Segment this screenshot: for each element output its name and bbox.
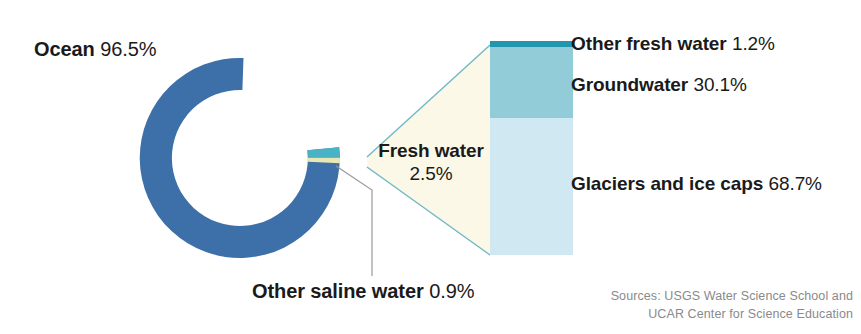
bar-segment-other-fresh-water[interactable] xyxy=(490,41,573,47)
label-groundwater-name: Groundwater xyxy=(571,74,688,95)
water-distribution-infographic: Ocean 96.5% Fresh water 2.5% Other salin… xyxy=(0,0,861,334)
donut-chart xyxy=(140,58,340,258)
sources-line-1: Sources: USGS Water Science School and xyxy=(523,287,853,305)
label-other-saline-water-name: Other saline water xyxy=(252,280,424,302)
saline-leader-line xyxy=(336,166,372,276)
label-ocean-name: Ocean xyxy=(34,38,95,60)
label-other-saline-water: Other saline water 0.9% xyxy=(252,280,474,302)
label-glaciers-and-ice-caps: Glaciers and ice caps 68.7% xyxy=(571,173,822,194)
label-fresh-water: Fresh water 2.5% xyxy=(370,140,492,185)
label-ocean-pct: 96.5% xyxy=(100,38,156,60)
label-other-fresh-water-pct: 1.2% xyxy=(732,33,775,54)
sources-credit: Sources: USGS Water Science School and U… xyxy=(523,287,853,323)
label-fresh-water-name: Fresh water xyxy=(370,140,492,161)
label-groundwater-pct: 30.1% xyxy=(693,74,746,95)
label-fresh-water-pct: 2.5% xyxy=(370,163,492,184)
label-glaciers-name: Glaciers and ice caps xyxy=(571,173,763,194)
label-glaciers-pct: 68.7% xyxy=(769,173,822,194)
bar-segment-groundwater[interactable] xyxy=(490,47,573,118)
sources-line-2: UCAR Center for Science Education xyxy=(523,305,853,323)
donut-slice-fresh-water[interactable] xyxy=(307,147,339,158)
freshwater-stacked-bar xyxy=(490,41,573,255)
bar-segment-glaciers[interactable] xyxy=(490,118,573,255)
label-other-saline-water-pct: 0.9% xyxy=(429,280,474,302)
label-groundwater: Groundwater 30.1% xyxy=(571,74,747,95)
label-ocean: Ocean 96.5% xyxy=(34,38,156,60)
label-other-fresh-water: Other fresh water 1.2% xyxy=(571,33,775,54)
label-other-fresh-water-name: Other fresh water xyxy=(571,33,727,54)
